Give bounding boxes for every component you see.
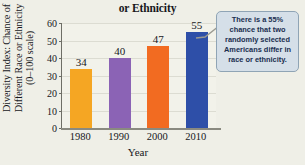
chart-screenshot: Americans Are a Different Race or Ethnic… xyxy=(0,0,305,165)
x-axis-line xyxy=(61,128,221,130)
bar: 55 xyxy=(186,32,208,128)
y-tick-mark xyxy=(59,93,63,94)
bar: 34 xyxy=(70,69,92,129)
annotation-line-2: chance that two xyxy=(220,25,295,35)
annotation-line-5: race or ethnicity. xyxy=(220,55,295,65)
y-axis-title-line-1: Diversity Index: Chance of xyxy=(1,0,13,129)
y-tick-label: 50 xyxy=(47,35,57,46)
y-axis-title: Diversity Index: Chance of Different Rac… xyxy=(1,0,45,129)
y-tick-mark xyxy=(59,111,63,112)
y-tick-label: 60 xyxy=(47,18,57,29)
bar: 40 xyxy=(109,58,131,128)
y-tick-label: 0 xyxy=(52,123,57,134)
bar-value-label: 40 xyxy=(114,45,125,57)
plot-area: 010203040506034404755 xyxy=(61,23,216,128)
y-tick-label: 30 xyxy=(47,70,57,81)
bar: 47 xyxy=(147,46,169,128)
y-axis-title-line-2: Different Race or Ethnicity xyxy=(13,0,25,129)
x-tick-label: 2010 xyxy=(185,131,206,142)
x-tick-label: 1980 xyxy=(70,131,91,142)
y-tick-mark xyxy=(59,23,63,24)
annotation-line-4: Americans differ in xyxy=(220,45,295,55)
bar-value-label: 34 xyxy=(76,56,87,68)
bar-value-label: 47 xyxy=(153,33,164,45)
y-tick-mark xyxy=(59,76,63,77)
y-tick-label: 40 xyxy=(47,53,57,64)
x-tick-label: 2000 xyxy=(147,131,168,142)
y-tick-label: 20 xyxy=(47,88,57,99)
annotation-callout: There is a 55% chance that two randomly … xyxy=(216,11,299,72)
x-axis-title: Year xyxy=(61,146,215,158)
y-axis-title-line-3: (0–100 scale) xyxy=(24,0,36,129)
annotation-line-1: There is a 55% xyxy=(220,15,295,25)
annotation-line-3: randomly selected xyxy=(220,35,295,45)
y-tick-mark xyxy=(59,41,63,42)
y-tick-mark xyxy=(59,58,63,59)
x-tick-label: 1990 xyxy=(108,131,129,142)
y-tick-label: 10 xyxy=(47,105,57,116)
